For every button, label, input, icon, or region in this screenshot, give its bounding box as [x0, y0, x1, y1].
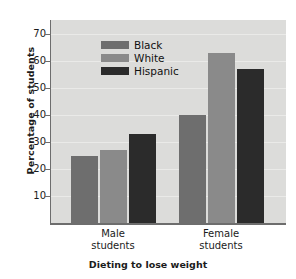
bar — [179, 115, 206, 223]
legend-item: White — [101, 52, 179, 64]
x-axis-line — [50, 223, 286, 225]
y-tick-label: 50 — [20, 83, 46, 93]
category-label-line: students — [166, 240, 276, 252]
bar — [100, 150, 127, 223]
bar — [71, 156, 98, 224]
y-tick-label: 40 — [20, 110, 46, 120]
category-label-line: Female — [203, 228, 239, 239]
y-tick-label: 70 — [20, 29, 46, 39]
bar — [129, 134, 156, 223]
category-label-female: Femalestudents — [166, 228, 276, 252]
legend-label: Hispanic — [134, 66, 179, 77]
category-label-line: Male — [101, 228, 125, 239]
category-label-line: students — [58, 240, 168, 252]
legend-swatch — [101, 67, 129, 75]
legend: BlackWhiteHispanic — [101, 39, 179, 77]
chart-screenshot: Percentage of students 10203040506070 Bl… — [0, 0, 296, 279]
legend-item: Black — [101, 39, 179, 51]
legend-swatch — [101, 54, 129, 62]
y-tick-label: 60 — [20, 56, 46, 66]
y-tick-label: 30 — [20, 137, 46, 147]
legend-label: White — [134, 53, 165, 64]
legend-swatch — [101, 41, 129, 49]
category-label-male: Malestudents — [58, 228, 168, 252]
legend-item: Hispanic — [101, 65, 179, 77]
x-axis-title: Dieting to lose weight — [0, 259, 296, 270]
bar — [237, 69, 264, 223]
bar — [208, 53, 235, 223]
y-tick-label: 10 — [20, 191, 46, 201]
y-tick-label: 20 — [20, 164, 46, 174]
y-axis-tick-labels: 10203040506070 — [16, 0, 46, 279]
legend-label: Black — [134, 40, 162, 51]
